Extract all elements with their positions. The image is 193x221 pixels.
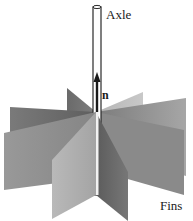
axle-label: Axle [106,8,131,21]
paddle-wheel-diagram: Axle n Fins [0,0,193,221]
fins-label: Fins [160,199,182,212]
normal-vector-label: n [102,89,109,101]
diagram-canvas [0,0,193,221]
axle-front-highlight [96,112,99,195]
